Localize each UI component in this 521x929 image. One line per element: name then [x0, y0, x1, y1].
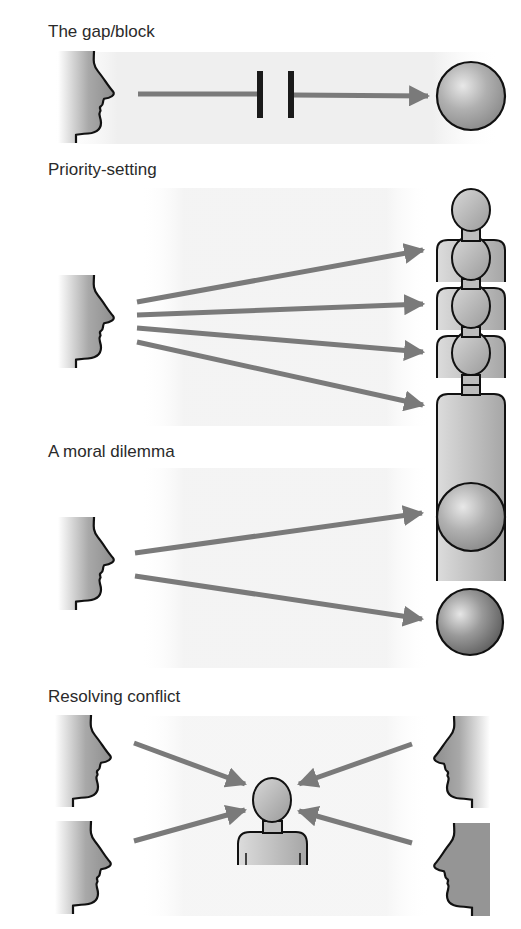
face-profile-icon [434, 823, 490, 916]
background-band [50, 52, 500, 144]
face-profile-icon [55, 821, 111, 914]
sphere-icon [437, 62, 505, 130]
block-bars-icon [288, 71, 294, 118]
face-profile-icon [434, 716, 490, 808]
block-bars-icon [257, 71, 263, 118]
background-band [140, 468, 430, 668]
panel-gap-block [50, 51, 505, 144]
person-icon [437, 331, 505, 387]
person-icon [437, 236, 505, 289]
face-profile-icon [58, 517, 114, 610]
person-icon [437, 284, 505, 337]
sphere-icon [437, 483, 505, 551]
panel-resolving-conflict [55, 715, 490, 916]
person-icon [452, 189, 490, 241]
sphere-dark-icon [437, 589, 503, 655]
arrow-right [293, 95, 428, 96]
face-profile-icon [58, 275, 114, 368]
diagram-canvas [0, 0, 521, 929]
face-profile-icon [55, 715, 111, 807]
